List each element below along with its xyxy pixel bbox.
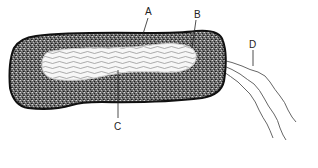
- label-b: B: [194, 9, 201, 20]
- label-d: D: [249, 39, 256, 50]
- label-a: A: [145, 6, 152, 17]
- bacterium-diagram: A B C D: [0, 0, 318, 168]
- label-c: C: [114, 121, 121, 132]
- flagella: [222, 60, 296, 140]
